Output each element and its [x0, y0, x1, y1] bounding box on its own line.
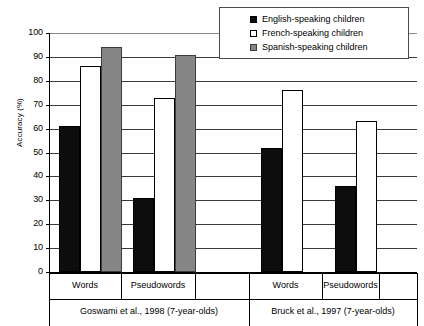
- y-axis-tick: [46, 248, 50, 249]
- x-axis-category-label: Words: [249, 280, 322, 290]
- x-axis-source-label: Goswami et al., 1998 (7-year-olds): [49, 306, 249, 316]
- x-axis-source-label: Bruck et al., 1997 (7-year-olds): [249, 306, 417, 316]
- x-axis-category-label: Pseudowords: [322, 280, 379, 290]
- category-label-band: WordsPseudowordsWordsPseudowords: [49, 273, 417, 299]
- legend-item: English-speaking children: [250, 12, 408, 26]
- plot-area: [49, 33, 417, 273]
- source-label-band: Goswami et al., 1998 (7-year-olds)Bruck …: [49, 299, 417, 326]
- y-axis-tick-label: 60: [19, 124, 43, 133]
- legend-item-label: French-speaking children: [262, 28, 363, 38]
- gray-square-icon: [250, 44, 257, 51]
- y-axis-tick-label: 0: [19, 267, 43, 276]
- y-axis-tick: [46, 176, 50, 177]
- category-separator: [417, 273, 418, 299]
- y-axis-tick-label: 80: [19, 76, 43, 85]
- source-separator: [417, 299, 418, 326]
- y-axis-title: Accuracy (%): [15, 73, 24, 173]
- y-axis-tick-label: 70: [19, 100, 43, 109]
- bar: [175, 55, 196, 272]
- bar: [59, 126, 80, 272]
- y-axis-tick: [46, 129, 50, 130]
- bar: [335, 186, 356, 272]
- bar: [154, 98, 175, 272]
- y-axis-tick: [46, 105, 50, 106]
- category-separator: [379, 273, 380, 299]
- x-axis-category-label: Words: [49, 280, 121, 290]
- black-square-icon: [250, 16, 257, 23]
- band-divider: [49, 299, 417, 300]
- y-axis-tick-label: 10: [19, 243, 43, 252]
- bar: [101, 47, 122, 272]
- y-axis-tick: [46, 81, 50, 82]
- category-separator: [195, 273, 196, 299]
- bar: [133, 198, 154, 272]
- y-axis-tick: [46, 200, 50, 201]
- bar: [282, 90, 303, 272]
- legend-item-label: English-speaking children: [262, 14, 365, 24]
- bar: [261, 148, 282, 272]
- chart-legend: English-speaking children French-speakin…: [219, 7, 409, 59]
- y-axis-tick-label: 90: [19, 52, 43, 61]
- bar: [80, 66, 101, 272]
- legend-item-label: Spanish-speaking children: [262, 42, 368, 52]
- y-axis-tick: [46, 33, 50, 34]
- legend-item: French-speaking children: [250, 26, 408, 40]
- y-axis-tick: [46, 224, 50, 225]
- band-divider: [49, 273, 417, 274]
- bar: [356, 121, 377, 272]
- y-axis-tick-label: 50: [19, 148, 43, 157]
- white-square-icon: [250, 30, 257, 37]
- y-axis-tick-label: 20: [19, 219, 43, 228]
- y-axis-tick: [46, 57, 50, 58]
- bar-chart-figure: Accuracy (%) 1009080706050403020100 Word…: [0, 0, 424, 326]
- x-axis-category-label: Pseudowords: [121, 280, 195, 290]
- y-axis-tick-label: 30: [19, 195, 43, 204]
- y-axis-tick: [46, 153, 50, 154]
- legend-item: Spanish-speaking children: [250, 40, 408, 54]
- y-axis-tick-label: 40: [19, 171, 43, 180]
- y-axis-tick-label: 100: [19, 28, 43, 37]
